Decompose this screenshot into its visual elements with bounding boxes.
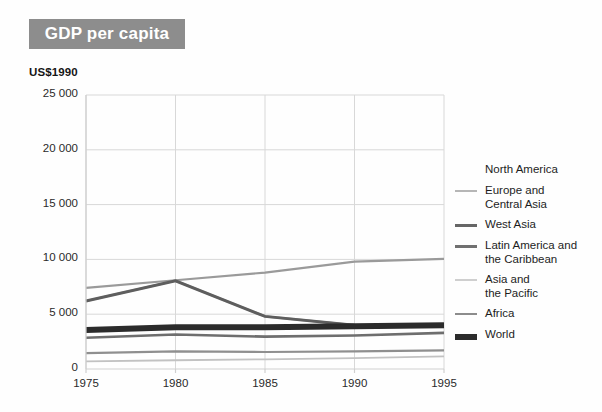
legend-item-label: West Asia <box>485 218 536 232</box>
x-axis-tick-label: 1990 <box>325 377 385 389</box>
legend-item[interactable]: Latin America and the Caribbean <box>455 239 597 266</box>
x-axis-tick-label: 1995 <box>414 377 474 389</box>
series-line <box>86 325 444 330</box>
y-axis-tick-label: 5 000 <box>18 306 78 318</box>
y-axis-tick-label: 10 000 <box>18 251 78 263</box>
legend-swatch <box>455 313 477 315</box>
legend-item[interactable]: West Asia <box>455 218 597 232</box>
legend-item[interactable]: World <box>455 328 597 342</box>
legend-swatch <box>455 245 477 248</box>
legend-item-label: Africa <box>485 307 514 321</box>
legend-item-label: World <box>485 328 515 342</box>
legend-item-label: North America <box>485 163 558 177</box>
y-axis-tick-label: 15 000 <box>18 197 78 209</box>
legend-item[interactable]: Europe and Central Asia <box>455 184 597 211</box>
legend-swatch <box>455 169 477 172</box>
x-axis-tick-label: 1975 <box>56 377 116 389</box>
legend-swatch <box>455 190 477 192</box>
legend-item[interactable]: Africa <box>455 307 597 321</box>
legend-swatch <box>455 279 477 281</box>
legend-item-label: Europe and Central Asia <box>485 184 547 211</box>
legend-item-label: Latin America and the Caribbean <box>485 239 577 266</box>
x-axis-tick-label: 1980 <box>146 377 206 389</box>
legend-item[interactable]: North America <box>455 163 597 177</box>
x-axis-tick-label: 1985 <box>235 377 295 389</box>
legend-item-label: Asia and the Pacific <box>485 273 538 300</box>
y-axis-tick-label: 25 000 <box>18 87 78 99</box>
chart-legend: North AmericaEurope and Central AsiaWest… <box>455 163 597 349</box>
chart-page: GDP per capita US$1990 05 00010 00015 00… <box>0 0 602 412</box>
legend-item[interactable]: Asia and the Pacific <box>455 273 597 300</box>
y-axis-tick-label: 20 000 <box>18 142 78 154</box>
legend-swatch <box>455 224 477 227</box>
legend-swatch <box>455 334 477 340</box>
y-axis-tick-label: 0 <box>18 361 78 373</box>
